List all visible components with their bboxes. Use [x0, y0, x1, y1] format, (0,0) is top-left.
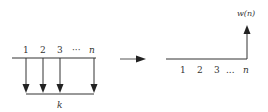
- label-3: 3: [57, 45, 63, 55]
- arrow-head-down-icon: [91, 84, 98, 93]
- arrow-head-down-icon: [57, 84, 64, 93]
- tick-label-3: 3: [214, 65, 220, 75]
- arrow-head-down-icon: [40, 84, 47, 93]
- label-n: n: [89, 45, 95, 55]
- left-arrowheads: [23, 84, 98, 93]
- diagram-canvas: 1 2 3 ··· n k 1 2 3 ... n w(n): [0, 0, 268, 112]
- right-diagram: 1 2 3 ... n w(n): [166, 9, 255, 75]
- arrow-right-icon: [136, 56, 146, 63]
- label-k: k: [57, 100, 62, 110]
- tick-label-1: 1: [180, 65, 186, 75]
- transition-arrow: [120, 56, 146, 63]
- arrow-head-down-icon: [23, 84, 30, 93]
- tick-label-n: n: [243, 65, 249, 75]
- arrow-head-up-icon: [244, 25, 251, 34]
- tick-label-dots: ...: [226, 65, 235, 75]
- label-1: 1: [23, 45, 29, 55]
- tick-label-2: 2: [197, 65, 203, 75]
- w-n-label: w(n): [237, 9, 255, 18]
- label-dots: ···: [72, 45, 81, 55]
- label-2: 2: [40, 45, 46, 55]
- left-labels: 1 2 3 ··· n k: [23, 45, 95, 110]
